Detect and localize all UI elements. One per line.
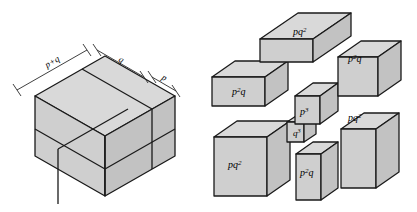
- binomial-cube-figure: .f-top { fill:#d9d9d9; stroke:#1a1a1a; s…: [0, 0, 417, 212]
- piece-lower-left: pq2: [214, 121, 290, 196]
- figure-canvas: .f-top { fill:#d9d9d9; stroke:#1a1a1a; s…: [0, 0, 417, 212]
- piece-middle-right: pq2: [341, 112, 399, 189]
- piece-bottom-center: p2q: [296, 142, 338, 200]
